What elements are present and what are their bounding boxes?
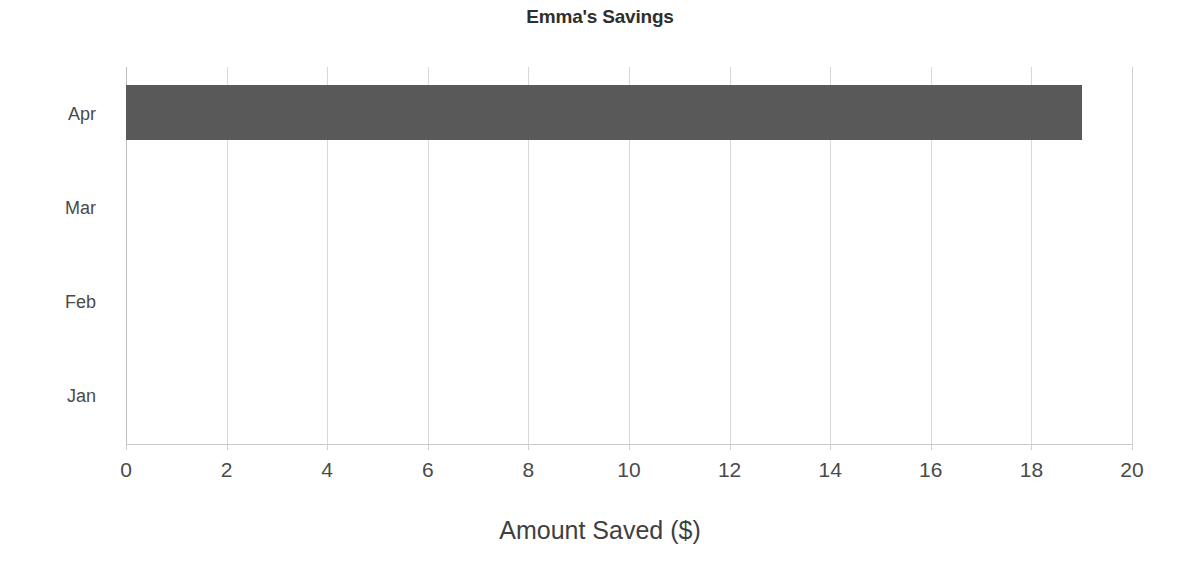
y-axis-tick-label-mar: Mar (0, 161, 112, 255)
plot-area (126, 67, 1132, 444)
x-axis-tick-label-6: 6 (422, 458, 434, 482)
bar-apr (126, 85, 1082, 140)
x-axis-tick-label-14: 14 (819, 458, 842, 482)
chart-title: Emma's Savings (0, 6, 1200, 28)
gridline (1132, 67, 1133, 444)
x-axis-tickmark (1031, 444, 1032, 450)
bar-chart: Emma's Savings AprMarFebJan 024681012141… (0, 0, 1200, 579)
x-axis-tick-label-0: 0 (120, 458, 132, 482)
bar-band-mar (126, 161, 1132, 255)
x-axis-tick-label-8: 8 (523, 458, 535, 482)
bar-band-jan (126, 350, 1132, 444)
x-axis-tick-label-16: 16 (919, 458, 942, 482)
x-axis-tickmark (730, 444, 731, 450)
y-axis-tick-label-feb: Feb (0, 256, 112, 350)
x-axis-tickmark (931, 444, 932, 450)
x-axis-title: Amount Saved ($) (0, 516, 1200, 545)
x-axis-tick-label-2: 2 (221, 458, 233, 482)
x-axis-tick-label-10: 10 (617, 458, 640, 482)
x-axis-tick-label-4: 4 (321, 458, 333, 482)
x-axis-tickmark (830, 444, 831, 450)
y-axis-tick-label-apr: Apr (0, 67, 112, 161)
bar-band-feb (126, 256, 1132, 350)
y-axis-category-labels: AprMarFebJan (0, 67, 112, 444)
bars-layer (126, 67, 1132, 444)
x-axis-tickmark (1132, 444, 1133, 450)
x-axis-tick-label-18: 18 (1020, 458, 1043, 482)
x-axis-tickmark (528, 444, 529, 450)
x-axis-tickmark (327, 444, 328, 450)
x-axis-tick-label-12: 12 (718, 458, 741, 482)
y-axis-tick-label-jan: Jan (0, 350, 112, 444)
x-axis-tick-label-20: 20 (1120, 458, 1143, 482)
x-axis-tickmark (126, 444, 127, 450)
bar-band-apr (126, 67, 1132, 161)
x-axis-tick-labels: 02468101214161820 (126, 458, 1132, 492)
x-axis-tickmark (629, 444, 630, 450)
x-axis-tickmark (227, 444, 228, 450)
x-axis-tickmark (428, 444, 429, 450)
